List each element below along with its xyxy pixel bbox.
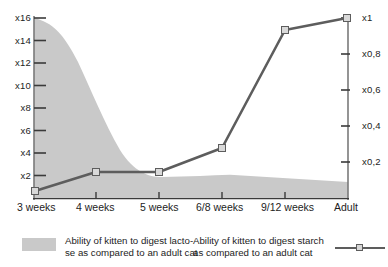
x-axis-labels: 3 weeks 4 weeks 5 weeks 6/8 weeks 9/12 w… — [0, 201, 388, 221]
y-right-tick-04: x0,4 — [362, 120, 381, 131]
x-tick-5-weeks: 5 weeks — [140, 201, 179, 213]
y-axis-left-labels: x16 x14 x12 x10 x8 x6 x4 x2 — [0, 0, 31, 210]
x-tick-9-12-weeks: 9/12 weeks — [261, 201, 314, 213]
chart-legend: Ability of kitten to digest lacto- se as… — [0, 232, 388, 267]
y-right-tick-08: x0,8 — [362, 48, 381, 59]
y-left-tick-2: x2 — [0, 170, 31, 181]
y-left-tick-10: x10 — [0, 80, 31, 91]
y-axis-right-labels: x1 x0,8 x0,6 x0,4 x0,2 — [355, 0, 388, 210]
legend-label-starch: Ability of kitten to digest starch as co… — [193, 235, 333, 260]
y-right-tick-02: x0,2 — [362, 156, 381, 167]
y-left-tick-12: x12 — [0, 57, 31, 68]
chart-container: x16 x14 x12 x10 x8 x6 x4 x2 x1 x0,8 x0,6… — [0, 0, 388, 267]
chart-svg — [0, 0, 388, 210]
x-tick-adult: Adult — [334, 201, 358, 213]
y-left-tick-8: x8 — [0, 102, 31, 113]
y-right-tick-1: x1 — [362, 12, 372, 23]
y-left-tick-16: x16 — [0, 12, 31, 23]
x-tick-4-weeks: 4 weeks — [76, 201, 115, 213]
x-tick-3-weeks: 3 weeks — [17, 201, 56, 213]
legend-label-lactose: Ability of kitten to digest lacto- se as… — [65, 235, 205, 260]
y-left-tick-6: x6 — [0, 125, 31, 136]
area-series-lactose — [34, 18, 348, 198]
legend-line-sample-icon — [335, 246, 385, 249]
x-tick-6-8-weeks: 6/8 weeks — [196, 201, 243, 213]
legend-line-marker-icon — [356, 244, 363, 251]
y-left-tick-4: x4 — [0, 147, 31, 158]
plot-area: x16 x14 x12 x10 x8 x6 x4 x2 x1 x0,8 x0,6… — [0, 0, 388, 210]
y-right-tick-06: x0,6 — [362, 84, 381, 95]
legend-swatch-area-icon — [22, 238, 56, 251]
y-left-tick-14: x14 — [0, 35, 31, 46]
